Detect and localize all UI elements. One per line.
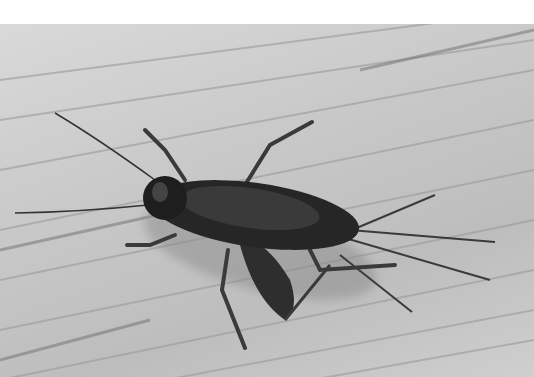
cricket-illustration <box>0 24 534 377</box>
cricket-photo: cricket <box>0 24 534 377</box>
image-frame: cricket <box>0 0 534 377</box>
